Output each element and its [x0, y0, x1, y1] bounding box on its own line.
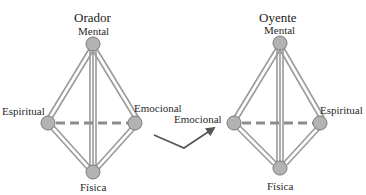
title-orador: Orador [74, 11, 111, 24]
label-fisica: Física [267, 181, 293, 192]
label-mental: Mental [78, 26, 109, 37]
label-espiritual: Espiritual [2, 106, 45, 117]
node-mental [86, 37, 100, 51]
title-oyente: Oyente [259, 11, 297, 24]
label-mental: Mental [264, 25, 295, 36]
node-fisica [86, 165, 100, 179]
arrow-icon [154, 128, 214, 148]
node-espiritual [313, 116, 327, 130]
node-emocional [227, 116, 241, 130]
label-espiritual: Espiritual [320, 105, 363, 116]
label-emocional: Emocional [174, 114, 222, 125]
diagram-canvas [0, 0, 366, 195]
label-fisica: Física [80, 182, 106, 193]
node-emocional [128, 116, 142, 130]
oyente-tetrahedron [227, 36, 327, 175]
node-espiritual [41, 116, 55, 130]
orador-tetrahedron [41, 37, 142, 179]
node-mental [273, 36, 287, 50]
node-fisica [273, 161, 287, 175]
